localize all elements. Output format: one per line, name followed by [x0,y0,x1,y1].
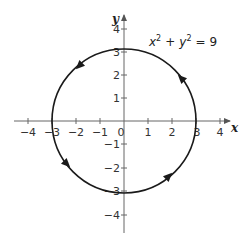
x-tick-label: −4 [20,126,36,139]
equation-rhs: 9 [210,35,218,49]
y-tick-label: 3 [113,46,120,59]
y-tick-label: 1 [113,92,120,105]
equation-label: x2+y2=9 [148,34,217,49]
y-tick-label: −2 [104,162,120,175]
x-tick-label: 2 [169,126,176,139]
diagram-canvas: −4 −3 −2 −1 0 1 2 3 4 4 3 2 1 −1 −2 −3 −… [0,0,244,241]
y-axis-label: y [111,12,120,26]
x-tick-label: 1 [145,126,152,139]
x-tick-label: −2 [68,126,84,139]
equation-exponent: 2 [156,34,161,43]
equation-plus: + [165,35,175,49]
equation-exponent: 2 [186,34,191,43]
y-tick-label: 2 [113,69,120,82]
equation-equals: = [195,35,205,49]
x-tick-label: 4 [217,126,224,139]
x-axis-label: x [230,121,239,135]
y-tick-label: −1 [104,138,120,151]
circle-parametric-diagram: −4 −3 −2 −1 0 1 2 3 4 4 3 2 1 −1 −2 −3 −… [0,0,244,241]
y-tick-label: −4 [104,209,120,222]
